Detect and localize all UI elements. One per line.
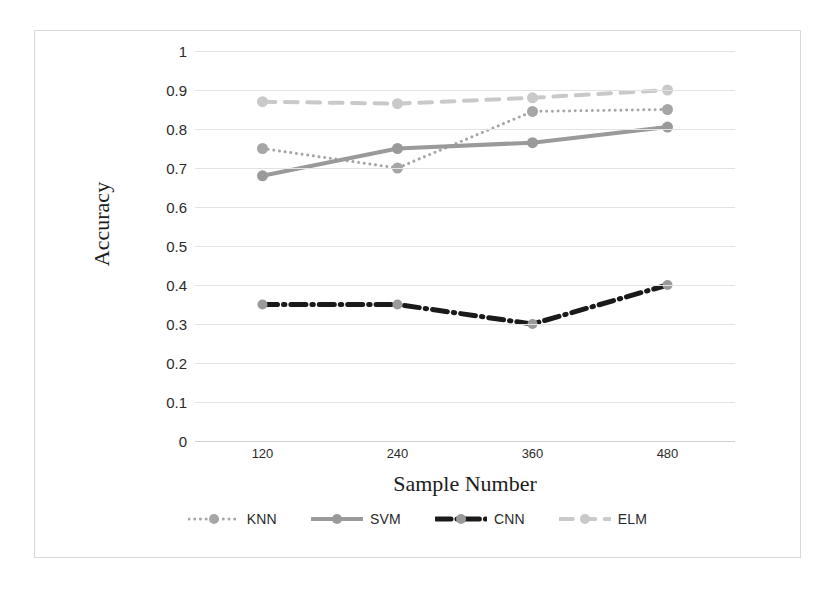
plot-area	[195, 51, 735, 441]
y-axis-tick-label: 0.8	[127, 121, 187, 138]
series-elm	[257, 85, 673, 110]
series-line	[263, 90, 668, 104]
gridline	[195, 402, 735, 403]
gridline	[195, 285, 735, 286]
gridline	[195, 51, 735, 52]
data-point-marker	[662, 122, 673, 133]
legend-item-elm[interactable]: ELM	[559, 511, 647, 527]
x-axis-title: Sample Number	[195, 471, 735, 497]
y-axis-title: Accuracy	[89, 149, 115, 299]
x-axis-tick-label: 120	[228, 446, 298, 461]
gridline	[195, 207, 735, 208]
legend-label: KNN	[247, 511, 277, 527]
legend-swatch-elm-icon	[559, 512, 611, 526]
data-point-marker	[392, 98, 403, 109]
gridline	[195, 129, 735, 130]
data-point-marker	[257, 170, 268, 181]
series-svm	[257, 122, 673, 182]
data-point-marker	[257, 96, 268, 107]
data-point-marker	[258, 300, 268, 310]
y-axis-tick-label: 0.1	[127, 394, 187, 411]
data-point-marker	[662, 104, 673, 115]
data-point-marker	[527, 92, 538, 103]
gridline	[195, 90, 735, 91]
y-axis-tick-labels: 10.90.80.70.60.50.40.30.20.10	[121, 51, 187, 441]
y-axis-tick-label: 0.2	[127, 355, 187, 372]
series-cnn	[258, 280, 673, 329]
y-axis-tick-label: 1	[127, 43, 187, 60]
y-axis-tick-label: 0.7	[127, 160, 187, 177]
series-line	[263, 285, 668, 324]
data-point-marker	[527, 137, 538, 148]
gridline	[195, 441, 735, 442]
y-axis-tick-label: 0.9	[127, 82, 187, 99]
y-axis-tick-label: 0.5	[127, 238, 187, 255]
y-axis-tick-label: 0.6	[127, 199, 187, 216]
chart-figure: 10.90.80.70.60.50.40.30.20.10 1202403604…	[34, 30, 801, 558]
x-axis-tick-label: 360	[498, 446, 568, 461]
y-axis-tick-label: 0.4	[127, 277, 187, 294]
series-line	[263, 110, 668, 169]
gridline	[195, 363, 735, 364]
data-point-marker	[393, 300, 403, 310]
legend-swatch-knn-icon	[188, 512, 240, 526]
data-point-marker	[257, 143, 268, 154]
x-axis-tick-labels: 120240360480	[195, 446, 735, 470]
legend-item-svm[interactable]: SVM	[311, 511, 401, 527]
y-axis-tick-label: 0	[127, 433, 187, 450]
y-axis-tick-label: 0.3	[127, 316, 187, 333]
x-axis-tick-label: 480	[633, 446, 703, 461]
legend-swatch-svm-icon	[311, 512, 363, 526]
x-axis-tick-label: 240	[363, 446, 433, 461]
data-point-marker	[527, 106, 538, 117]
gridline	[195, 246, 735, 247]
gridline	[195, 324, 735, 325]
chart-legend: KNNSVMCNNELM	[35, 511, 800, 527]
legend-label: CNN	[494, 511, 525, 527]
legend-label: ELM	[618, 511, 647, 527]
legend-item-knn[interactable]: KNN	[188, 511, 277, 527]
data-point-marker	[392, 143, 403, 154]
legend-label: SVM	[370, 511, 401, 527]
legend-swatch-cnn-icon	[435, 512, 487, 526]
gridline	[195, 168, 735, 169]
legend-item-cnn[interactable]: CNN	[435, 511, 525, 527]
